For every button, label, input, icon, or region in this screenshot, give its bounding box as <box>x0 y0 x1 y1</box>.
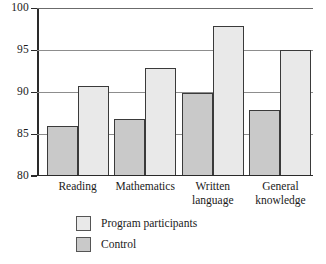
y-tick-mark-80 <box>31 176 37 177</box>
x-axis-label-general-knowledge: General knowledge <box>249 180 311 207</box>
y-tick-label-80: 80 <box>17 170 29 182</box>
legend-swatch-icon <box>76 216 91 231</box>
y-tick-label-85: 85 <box>17 128 29 140</box>
y-tick-label-100: 100 <box>11 2 29 14</box>
bar <box>182 93 213 176</box>
bar-group <box>47 8 109 176</box>
bar <box>47 126 78 176</box>
bar <box>145 68 176 176</box>
chart-legend: Program participantsControl <box>76 214 276 256</box>
x-axis-label-written-language: Written language <box>182 180 244 207</box>
bar-group <box>182 8 244 176</box>
plot-area: 10095908580 <box>37 8 313 176</box>
legend-label: Control <box>101 239 136 251</box>
bar <box>114 119 145 176</box>
legend-swatch-icon <box>76 237 91 252</box>
bar <box>249 110 280 176</box>
bar <box>280 50 311 176</box>
legend-item: Control <box>76 235 276 254</box>
bar-chart-figure: 10095908580 ReadingMathematicsWritten la… <box>0 0 326 264</box>
y-tick-label-90: 90 <box>17 86 29 98</box>
legend-item: Program participants <box>76 214 276 233</box>
x-axis-label-reading: Reading <box>47 180 109 194</box>
x-axis-baseline <box>31 175 313 177</box>
bar <box>78 86 109 176</box>
bars-layer <box>37 8 313 176</box>
bar-group <box>114 8 176 176</box>
bar-group <box>249 8 311 176</box>
bar <box>213 26 244 176</box>
x-axis-label-mathematics: Mathematics <box>114 180 176 194</box>
x-axis-category-labels: ReadingMathematicsWritten languageGenera… <box>37 180 313 214</box>
legend-label: Program participants <box>101 218 197 230</box>
y-tick-label-95: 95 <box>17 44 29 56</box>
